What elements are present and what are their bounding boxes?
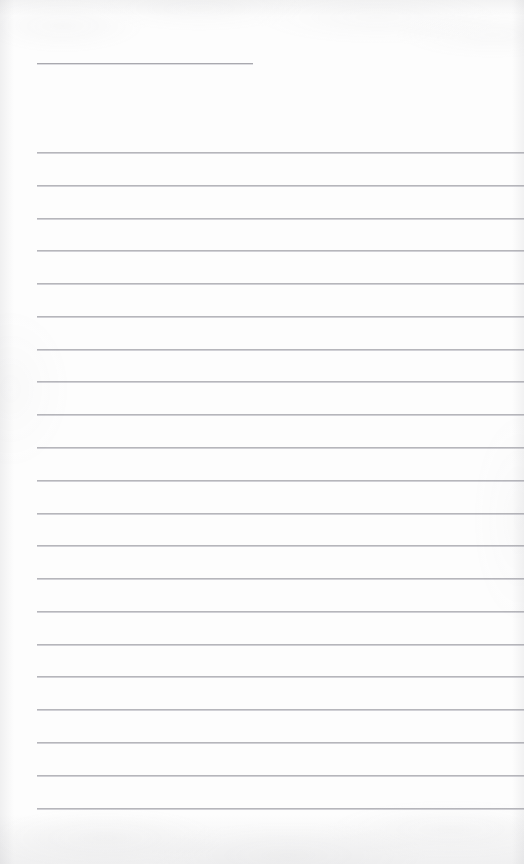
ruled-line [37,578,524,579]
ruled-line [37,545,524,546]
ruled-line [37,250,524,251]
ruled-line [37,316,524,317]
scanned-page [0,0,524,864]
ruled-line [37,644,524,645]
ruled-line [37,676,524,677]
ruled-line [37,185,524,186]
ruled-line [37,709,524,710]
ruled-line [37,808,524,809]
ruled-line [37,414,524,415]
title-rule [37,63,253,64]
ruled-line [37,480,524,481]
ruled-line [37,611,524,612]
ruled-line [37,218,524,219]
ruled-line [37,775,524,776]
ruled-line [37,349,524,350]
ruled-line [37,381,524,382]
ruled-line [37,513,524,514]
ruled-line [37,447,524,448]
writing-area [0,0,524,864]
ruled-line [37,283,524,284]
ruled-line [37,152,524,153]
ruled-line [37,742,524,743]
